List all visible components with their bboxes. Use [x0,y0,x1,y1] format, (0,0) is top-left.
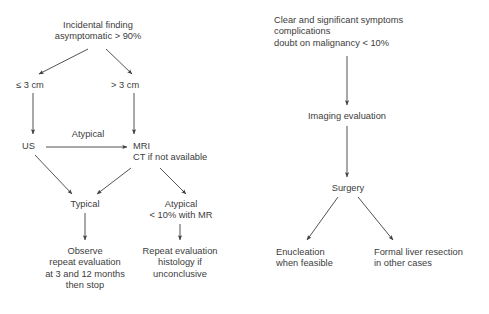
node-clear-significant-symptoms: Clear and significant symptoms complicat… [274,15,403,49]
node-line: Typical [71,199,100,210]
arrow-mri-to-atypical [160,168,186,194]
node-formal-liver-resection: Formal liver resection in other cases [374,247,463,270]
node-repeat-evaluation-histology: Repeat evaluation histology if unconclus… [143,246,218,280]
node-enucleation: Enucleation when feasible [276,247,333,270]
node-line: Repeat evaluation [143,246,218,257]
node-line: when feasible [276,258,333,269]
flowchart-canvas: Incidental finding asymptomatic > 90% ≤ … [0,0,489,314]
node-line: CT if not available [133,152,207,163]
node-line: Atypical [150,199,213,210]
node-mri: MRI CT if not available [133,141,207,164]
node-line: asymptomatic > 90% [55,31,142,42]
node-line: Atypical [72,129,105,140]
node-line: US [22,141,35,152]
node-line: at 3 and 12 months [45,269,125,280]
node-line: doubt on malignancy < 10% [274,38,403,49]
arrow-surgery-to-enucleation [307,197,338,240]
node-typical: Typical [71,199,100,210]
arrow-us-to-typical [35,155,72,194]
node-line: unconclusive [143,269,218,280]
node-line: < 10% with MR [150,210,213,221]
node-line: histology if [143,257,218,268]
node-surgery: Surgery [332,183,365,194]
node-observe-repeat-evaluation: Observe repeat evaluation at 3 and 12 mo… [45,246,125,292]
arrow-root-to-small [39,49,88,74]
node-line: MRI [133,141,207,152]
node-incidental-finding: Incidental finding asymptomatic > 90% [55,20,142,43]
node-us: US [22,141,35,152]
node-line: Incidental finding [55,20,142,31]
node-line: Imaging evaluation [308,111,386,122]
node-line: Formal liver resection [374,247,463,258]
node-size-small: ≤ 3 cm [16,80,44,91]
node-line: ≤ 3 cm [16,80,44,91]
node-line: Surgery [332,183,365,194]
edge-label-atypical: Atypical [72,129,105,140]
node-line: > 3 cm [111,80,139,91]
node-size-large: > 3 cm [111,80,139,91]
node-line: repeat evaluation [45,257,125,268]
node-line: Enucleation [276,247,333,258]
arrow-root-to-large [106,49,132,74]
node-imaging-evaluation: Imaging evaluation [308,111,386,122]
arrow-mri-to-typical [97,168,131,194]
node-line: Clear and significant symptoms [274,15,403,26]
node-line: Observe [45,246,125,257]
node-line: complications [274,26,403,37]
node-line: then stop [45,280,125,291]
arrow-surgery-to-resection [358,197,393,240]
node-line: in other cases [374,258,463,269]
node-atypical-with-mr: Atypical < 10% with MR [150,199,213,222]
